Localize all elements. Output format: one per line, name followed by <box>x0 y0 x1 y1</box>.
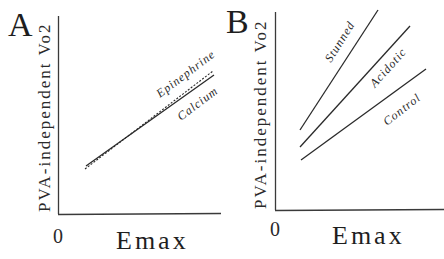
panel-b-control-line <box>301 69 426 160</box>
panel-a-x-axis-label: Emax <box>116 226 189 255</box>
panel-b: B PVA-independent Vo2 0 Emax Stunned Aci… <box>226 3 444 250</box>
panel-a: A PVA-independent Vo2 0 Emax Epinephrine… <box>8 6 221 255</box>
panel-b-acidotic-line <box>300 26 410 147</box>
panel-b-x-origin-tick: 0 <box>270 218 280 240</box>
panel-b-stunned-label: Stunned <box>322 18 358 64</box>
panel-a-letter: A <box>8 6 33 43</box>
panel-b-control-label: Control <box>380 90 423 128</box>
panel-b-letter: B <box>226 3 249 40</box>
panel-a-x-origin-tick: 0 <box>53 225 63 247</box>
panel-a-calcium-label: Calcium <box>174 84 220 124</box>
figure: A PVA-independent Vo2 0 Emax Epinephrine… <box>0 0 444 259</box>
panel-b-x-axis-label: Emax <box>332 221 405 250</box>
panel-a-epinephrine-line <box>85 71 213 169</box>
panel-a-x-axis <box>58 214 221 215</box>
panel-a-y-axis-label: PVA-independent Vo2 <box>35 22 54 212</box>
panel-b-x-axis <box>275 210 444 211</box>
panel-b-y-axis-label: PVA-independent Vo2 <box>251 19 270 209</box>
panel-a-calcium-line <box>86 75 214 166</box>
